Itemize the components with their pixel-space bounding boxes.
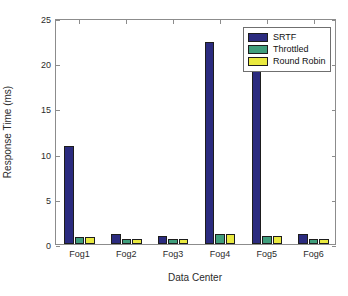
x-tick-mark-top [220,20,221,24]
bar-throttled-fog3 [168,239,178,244]
y-tick-mark-right [332,65,336,66]
bar-srtf-fog6 [298,234,308,244]
y-tick-mark-right [332,110,336,111]
y-tick-label: 15 [41,105,51,115]
x-tick-label: Fog3 [163,249,184,259]
legend-swatch-icon [248,33,268,42]
x-tick-label: Fog1 [69,249,90,259]
bar-srtf-fog4 [205,42,215,244]
y-tick-mark-right [332,201,336,202]
bar-throttled-fog5 [262,236,272,244]
bar-srtf-fog2 [111,234,121,244]
bar-round-robin-fog4 [226,234,236,244]
x-tick-mark-top [267,20,268,24]
bar-srtf-fog1 [64,146,74,244]
y-tick-mark [56,246,60,247]
y-tick-mark [56,156,60,157]
bar-round-robin-fog3 [179,239,189,244]
bar-round-robin-fog2 [132,239,142,244]
y-tick-label: 25 [41,15,51,25]
legend-item-throttled[interactable]: Throttled [248,44,326,55]
y-tick-mark-right [332,156,336,157]
bar-round-robin-fog6 [319,239,329,244]
chart-legend: SRTFThrottledRound Robin [243,27,331,72]
bar-throttled-fog2 [122,239,132,244]
bar-srtf-fog3 [158,236,168,244]
y-tick-mark [56,201,60,202]
x-tick-label: Fog2 [116,249,137,259]
x-tick-label: Fog6 [303,249,324,259]
y-axis-title: Response Time (ms) [2,86,13,178]
x-axis-title: Data Center [168,272,222,283]
x-tick-mark-top [79,20,80,24]
bar-round-robin-fog1 [85,237,95,244]
x-tick-label: Fog5 [256,249,277,259]
legend-label: Round Robin [273,57,326,66]
legend-label: Throttled [273,45,309,54]
bar-round-robin-fog5 [273,236,283,244]
x-tick-label: Fog4 [210,249,231,259]
x-tick-mark-top [126,20,127,24]
x-tick-mark-top [314,20,315,24]
legend-item-round-robin[interactable]: Round Robin [248,56,326,67]
legend-item-srtf[interactable]: SRTF [248,32,326,43]
bar-srtf-fog5 [252,69,262,244]
y-tick-mark-right [332,20,336,21]
legend-swatch-icon [248,45,268,54]
y-tick-mark [56,65,60,66]
bar-throttled-fog6 [309,239,319,244]
y-tick-label: 20 [41,60,51,70]
legend-label: SRTF [273,33,296,42]
y-tick-label: 10 [41,151,51,161]
y-tick-mark [56,110,60,111]
y-tick-label: 5 [46,196,51,206]
y-tick-mark [56,20,60,21]
y-tick-label: 0 [46,241,51,251]
legend-swatch-icon [248,57,268,66]
bar-throttled-fog4 [215,234,225,244]
y-tick-mark-right [332,246,336,247]
bar-throttled-fog1 [75,237,85,244]
bar-chart-figure: Response Time (ms) Data Center 051015202… [0,0,348,296]
x-tick-mark-top [173,20,174,24]
